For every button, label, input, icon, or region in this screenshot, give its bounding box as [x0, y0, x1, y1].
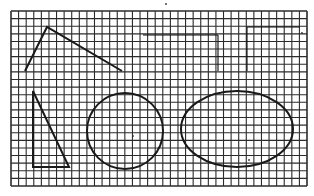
dot: [165, 3, 167, 5]
dot: [132, 135, 134, 137]
grid-drawing: [0, 0, 314, 196]
dot: [248, 159, 250, 161]
dot: [301, 32, 303, 34]
